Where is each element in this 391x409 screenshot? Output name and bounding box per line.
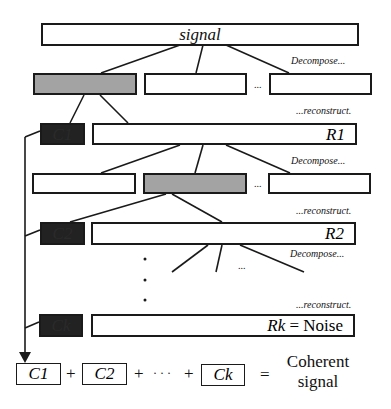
plus-3: + <box>184 364 194 384</box>
decompose-annotation-3: Decompose... <box>290 248 344 259</box>
plus-1: + <box>66 364 76 384</box>
diagram-canvas: signal Decompose... ... ...reconstruct. … <box>0 0 391 409</box>
selected-branch-box-2 <box>143 173 247 194</box>
r2-label: R2 <box>325 224 344 243</box>
c1-label: C1 <box>42 125 83 144</box>
coherent-box-c1: C1 <box>40 123 85 145</box>
decompose-annotation-2: Decompose... <box>291 155 345 166</box>
rk-var: Rk <box>267 316 285 335</box>
residual-box-r1: R1 <box>92 123 357 145</box>
signal-box: signal <box>41 23 359 46</box>
ck-label: Ck <box>41 316 81 335</box>
branch-box-2a <box>32 173 136 194</box>
reconstruct-annotation-1: ...reconstruct. <box>296 105 351 116</box>
branch-box-2c <box>268 173 371 194</box>
noise-eq: = Noise <box>285 316 343 335</box>
residual-box-rk-noise: Rk = Noise <box>91 314 355 337</box>
selected-branch-box-1 <box>33 73 137 95</box>
reconstruct-annotation-2: ...reconstruct. <box>296 205 351 216</box>
horizontal-ellipsis-3: ... <box>238 260 246 271</box>
coherent-signal-label: Coherent signal <box>280 352 356 392</box>
c2-label: C2 <box>42 224 83 243</box>
plus-2: + <box>134 364 144 384</box>
horizontal-ellipsis-2: ... <box>254 178 262 189</box>
coherent-box-c2: C2 <box>40 222 85 245</box>
coherent-box-ck: Ck <box>39 314 83 337</box>
signal-label: signal <box>43 25 357 44</box>
vertical-ellipsis-icon <box>144 258 147 302</box>
equals-sign: = <box>260 365 270 385</box>
branch-box-1c <box>269 73 372 95</box>
residual-box-r2: R2 <box>91 222 356 245</box>
coherent-line2: signal <box>280 372 356 392</box>
coherent-line1: Coherent <box>280 352 356 372</box>
rk-noise-label: Rk = Noise <box>267 316 343 335</box>
sum-ellipsis: · · · <box>153 363 171 383</box>
sum-term-ck: Ck <box>201 364 245 386</box>
reconstruct-annotation-3: ...reconstruct. <box>296 299 351 310</box>
horizontal-ellipsis-1: ... <box>254 79 262 90</box>
r1-label: R1 <box>326 125 345 144</box>
sum-term-c1: C1 <box>16 363 61 385</box>
decompose-annotation-1: Decompose... <box>291 55 345 66</box>
arrow-head-icon <box>19 352 31 363</box>
sum-term-c2: C2 <box>82 363 127 385</box>
branch-box-1b <box>144 73 247 95</box>
